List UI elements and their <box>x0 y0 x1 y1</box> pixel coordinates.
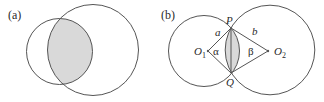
diagram-canvas: (a) (b) P Q O 1 O 2 a <box>0 0 324 102</box>
point-o1-label: O <box>194 45 202 57</box>
panel-b: (b) P Q O 1 O 2 a b α β <box>161 5 315 95</box>
point-o1-subscript: 1 <box>202 51 206 60</box>
panel-b-label: (b) <box>161 8 175 22</box>
segment-a-label: a <box>215 26 221 38</box>
panel-a: (a) <box>8 5 139 96</box>
point-o2-subscript: 2 <box>282 51 286 60</box>
angle-alpha-label: α <box>213 45 219 57</box>
panel-a-label: (a) <box>8 8 21 22</box>
center-o1-dot <box>207 50 209 52</box>
point-q-label: Q <box>226 76 234 88</box>
point-p-label: P <box>225 14 233 26</box>
point-o2-label: O <box>274 45 282 57</box>
angle-beta-label: β <box>248 45 254 57</box>
figure: (a) (b) P Q O 1 O 2 a <box>0 0 324 102</box>
center-o2-dot <box>267 50 269 52</box>
segment-b-label: b <box>252 25 258 37</box>
